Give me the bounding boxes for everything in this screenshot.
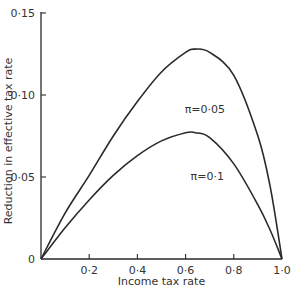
curve-annotation-1: π=0·05 [185, 103, 225, 116]
y-tick-label: 0·15 [11, 7, 36, 20]
curve-annotation-2: π=0·1 [191, 170, 224, 183]
line-chart: 00·050·100·150·20·40·60·81·0Income tax r… [0, 0, 293, 287]
y-tick-label: 0 [28, 253, 35, 266]
axes [41, 12, 282, 259]
y-axis-label: Reduction in effective tax rate [2, 57, 15, 224]
x-axis-label: Income tax rate [118, 275, 206, 287]
chart-container: 00·050·100·150·20·40·60·81·0Income tax r… [0, 0, 293, 287]
x-tick-label: 1·0 [273, 264, 291, 277]
curve-series-2 [41, 132, 282, 259]
labels: 00·050·100·150·20·40·60·81·0Income tax r… [2, 7, 291, 287]
curve-series-1 [41, 49, 282, 259]
x-tick-label: 0·2 [80, 264, 98, 277]
curves [41, 49, 282, 259]
x-tick-label: 0·8 [225, 264, 243, 277]
